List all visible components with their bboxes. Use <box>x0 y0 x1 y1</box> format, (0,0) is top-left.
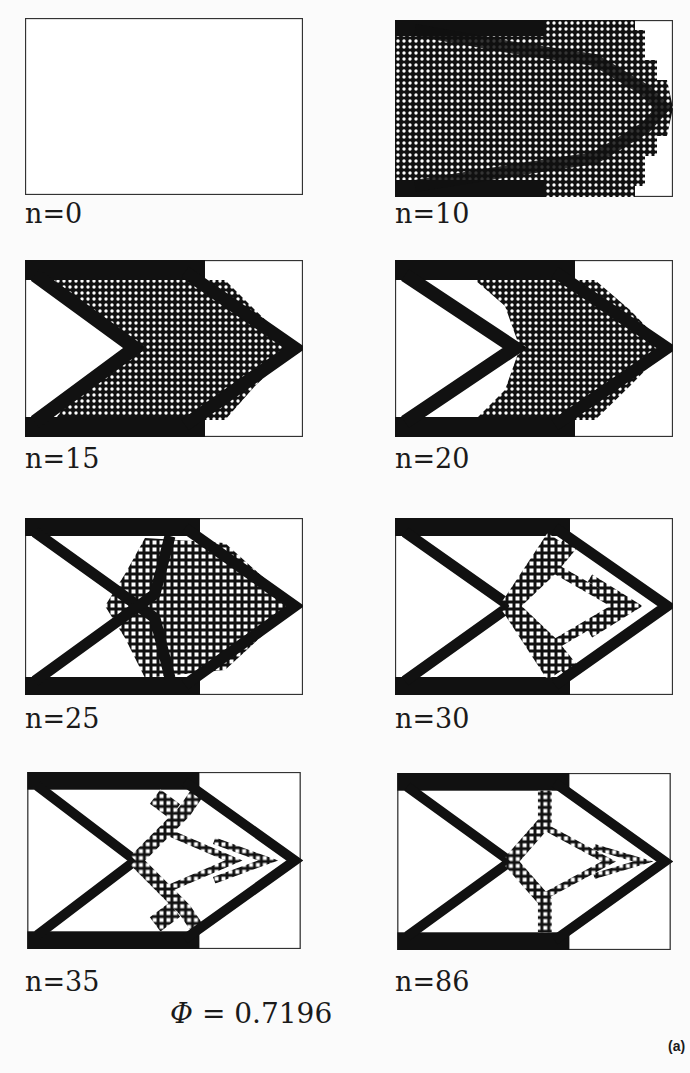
topology-plot-chevron-cross <box>395 260 673 437</box>
iteration-label: n=10 <box>395 200 469 227</box>
panel-n15 <box>25 260 303 437</box>
panel-n35 <box>25 772 303 949</box>
topology-plot-truss <box>25 772 303 949</box>
objective-number: 0.7196 <box>234 997 332 1030</box>
topology-plot-truss-final <box>395 773 673 950</box>
panel-n86 <box>395 773 673 950</box>
panel-n25 <box>25 518 303 695</box>
iteration-label: n=20 <box>395 445 469 472</box>
topology-plot-chevron-dense <box>25 260 303 437</box>
objective-value: Φ = 0.7196 <box>170 1000 332 1028</box>
iteration-label: n=86 <box>395 968 469 995</box>
iteration-label: n=30 <box>395 705 469 732</box>
equals-sign: = <box>202 997 225 1030</box>
panel-n20 <box>395 260 673 437</box>
topology-plot-truss-forming <box>395 518 673 695</box>
topology-plot-empty <box>25 18 303 195</box>
panel-n0 <box>25 18 303 195</box>
subfigure-tag: (a) <box>668 1038 685 1054</box>
iteration-label: n=15 <box>25 445 99 472</box>
panel-n30 <box>395 518 673 695</box>
phi-symbol: Φ <box>170 997 193 1030</box>
iteration-label: n=25 <box>25 705 99 732</box>
topology-plot-dense <box>395 20 673 197</box>
iteration-label: n=35 <box>25 968 99 995</box>
topology-plot-cross-dense <box>25 518 303 695</box>
iteration-label: n=0 <box>25 200 82 227</box>
panel-n10 <box>395 20 673 197</box>
